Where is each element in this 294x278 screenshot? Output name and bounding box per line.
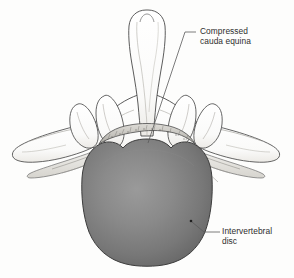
- label-compressed-cauda-equina: Compressed cauda equina: [200, 26, 251, 47]
- intervertebral-disc: [82, 139, 212, 266]
- label-intervertebral-disc: Intervertebral disc: [222, 226, 272, 247]
- anatomical-figure: Compressed cauda equina Intervertebral d…: [0, 0, 294, 278]
